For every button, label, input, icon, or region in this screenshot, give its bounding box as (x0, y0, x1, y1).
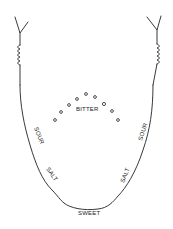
sour-left-label: SOUR (33, 126, 46, 145)
bitter-label: BITTER (76, 106, 99, 112)
right-nerve (147, 16, 161, 85)
tongue-diagram: BITTER SOUR SALT SOUR SALT SWEET (0, 0, 173, 229)
left-nerve (15, 17, 28, 85)
salt-right-label: SALT (119, 167, 130, 184)
sweet-label: SWEET (78, 210, 100, 216)
tongue-outline (20, 85, 153, 210)
salt-left-label: SALT (45, 166, 59, 182)
